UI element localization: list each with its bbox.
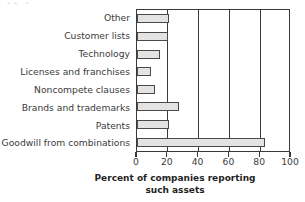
x-axis-tick-labels: 020406080100 [136, 157, 290, 169]
category-label: Noncompete clauses [0, 81, 133, 99]
x-axis-tick-label: 60 [223, 157, 235, 166]
category-label: Technology [0, 45, 133, 63]
bar [137, 50, 160, 59]
x-axis-title: Percent of companies reporting such asse… [60, 172, 290, 196]
x-axis-tick-label: 20 [161, 157, 173, 166]
x-axis-tick-label: 100 [281, 157, 299, 166]
bar-chart: ∙∙ ∘ Other Customer lists Technology Lic… [0, 0, 305, 202]
category-axis-labels: Other Customer lists Technology Licenses… [0, 9, 133, 152]
bar [137, 32, 168, 41]
bar [137, 14, 169, 23]
bar-slot [137, 133, 289, 151]
category-label: Patents [0, 116, 133, 134]
bar-slot [137, 81, 289, 99]
clipped-header-remnant: ∙∙ ∘ [6, 0, 32, 4]
bar [137, 120, 169, 129]
category-label: Brands and trademarks [0, 98, 133, 116]
bar [137, 67, 151, 76]
bar [137, 102, 179, 111]
x-axis-tick-label: 80 [253, 157, 265, 166]
category-label: Licenses and franchises [0, 63, 133, 81]
bar-slot [137, 116, 289, 134]
category-label: Other [0, 9, 133, 27]
bar-slot [137, 45, 289, 63]
x-axis-title-line-1: Percent of companies reporting [60, 172, 290, 184]
bar-slot [137, 28, 289, 46]
bar-slot [137, 98, 289, 116]
x-axis-title-line-2: such assets [60, 184, 290, 196]
bar-series [137, 10, 289, 151]
category-label: Goodwill from combinations [0, 134, 133, 152]
bar [137, 85, 155, 94]
x-axis-tick-label: 0 [133, 157, 139, 166]
plot-area [136, 9, 290, 152]
bar [137, 138, 265, 147]
category-label: Customer lists [0, 27, 133, 45]
bar-slot [137, 10, 289, 28]
x-axis-tick-label: 40 [192, 157, 204, 166]
bar-slot [137, 63, 289, 81]
